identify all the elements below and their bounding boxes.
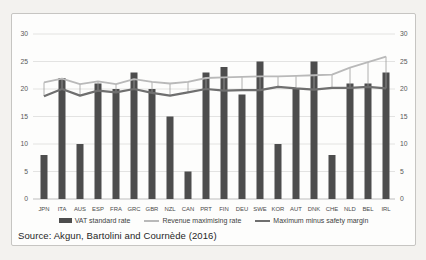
svg-text:5: 5 [24, 168, 28, 175]
svg-text:0: 0 [24, 195, 28, 202]
svg-text:GBR: GBR [146, 206, 159, 212]
line-swatch-icon [144, 220, 159, 222]
legend-label: Maximum minus safety margin [273, 217, 368, 224]
svg-text:DEU: DEU [236, 206, 248, 212]
svg-text:AUT: AUT [290, 206, 302, 212]
svg-text:FIN: FIN [219, 206, 229, 212]
chart-legend: VAT standard rate Revenue maximising rat… [12, 217, 415, 224]
svg-text:FRA: FRA [110, 206, 122, 212]
line-swatch-icon [255, 220, 270, 222]
svg-text:25: 25 [20, 58, 28, 65]
bar-swatch-icon [59, 218, 72, 223]
svg-text:20: 20 [400, 85, 408, 92]
svg-text:JPN: JPN [38, 206, 49, 212]
svg-text:20: 20 [20, 85, 28, 92]
svg-text:10: 10 [20, 140, 28, 147]
vat-chart-card: 005510101515202025253030JPNITAAUSESPFRAG… [11, 13, 416, 246]
legend-label: VAT standard rate [75, 217, 131, 224]
svg-text:CAN: CAN [182, 206, 194, 212]
legend-item-revenue-maximising-rate: Revenue maximising rate [144, 217, 241, 224]
svg-text:PRT: PRT [200, 206, 212, 212]
svg-text:IRL: IRL [381, 206, 391, 212]
vat-chart-plot: 005510101515202025253030JPNITAAUSESPFRAG… [12, 14, 415, 245]
svg-text:15: 15 [20, 113, 28, 120]
svg-text:NZL: NZL [164, 206, 176, 212]
svg-text:30: 30 [20, 30, 28, 37]
svg-text:NLD: NLD [344, 206, 356, 212]
svg-text:DNK: DNK [308, 206, 321, 212]
svg-text:ITA: ITA [58, 206, 67, 212]
svg-text:5: 5 [400, 168, 404, 175]
legend-item-vat-standard-rate: VAT standard rate [59, 217, 131, 224]
svg-text:15: 15 [400, 113, 408, 120]
svg-text:0: 0 [400, 195, 404, 202]
svg-text:GRC: GRC [127, 206, 141, 212]
svg-text:30: 30 [400, 30, 408, 37]
svg-text:SWE: SWE [253, 206, 266, 212]
legend-label: Revenue maximising rate [162, 217, 241, 224]
svg-text:10: 10 [400, 140, 408, 147]
scanned-page-background: 005510101515202025253030JPNITAAUSESPFRAG… [0, 0, 426, 260]
legend-item-maximum-minus-safety-margin: Maximum minus safety margin [255, 217, 368, 224]
source-citation: Source: Akgun, Bartolini and Cournède (2… [18, 230, 408, 241]
svg-text:BEL: BEL [362, 206, 374, 212]
svg-text:AUS: AUS [74, 206, 86, 212]
svg-text:CHE: CHE [326, 206, 339, 212]
svg-text:KOR: KOR [272, 206, 285, 212]
svg-text:25: 25 [400, 58, 408, 65]
svg-text:ESP: ESP [92, 206, 104, 212]
